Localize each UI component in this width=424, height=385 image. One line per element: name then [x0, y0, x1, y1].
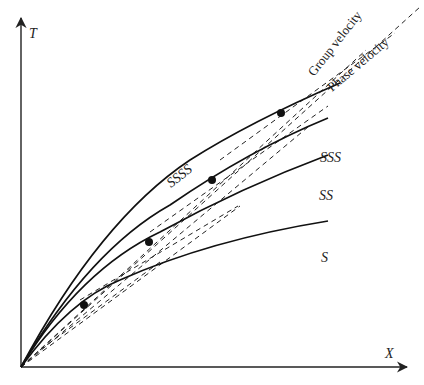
phase-line-s — [21, 206, 240, 367]
curve-sss — [21, 118, 328, 367]
t-axis-label: T — [29, 26, 38, 41]
label-ssss: SSSS — [164, 161, 195, 190]
group-line-s — [40, 262, 160, 350]
phase-line-ss — [21, 127, 308, 367]
travel-time-diagram: T X S — [0, 0, 424, 385]
curve-s — [21, 221, 328, 367]
diagram-svg: T X S — [0, 0, 424, 385]
tangent-dot-sss — [208, 176, 216, 184]
label-s: S — [321, 250, 328, 265]
label-ss: SS — [319, 188, 333, 203]
tangent-dot-s — [80, 301, 88, 309]
label-sss: SSS — [320, 150, 341, 165]
tangent-dot-ssss — [277, 109, 285, 117]
x-axis-label: X — [384, 346, 394, 361]
tangent-dot-ss — [145, 238, 153, 246]
group-line-ss — [80, 206, 238, 300]
phase-line-sss — [21, 50, 366, 367]
